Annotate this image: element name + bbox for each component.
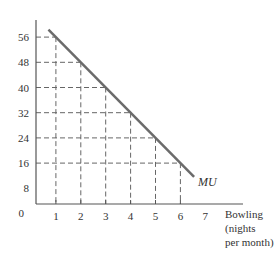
- origin-label: 0: [19, 207, 25, 219]
- y-tick-label: 16: [18, 157, 30, 169]
- x-tick-label: 4: [128, 210, 134, 222]
- dashed-guides: [36, 37, 180, 204]
- x-tick-label: 3: [103, 210, 109, 222]
- y-tick-label: 40: [18, 82, 30, 94]
- svg-text:(nights: (nights: [225, 222, 256, 235]
- x-tick-label: 1: [53, 210, 59, 222]
- x-tick-labels: 1234567: [53, 210, 208, 222]
- y-tick-label: 48: [18, 56, 30, 68]
- x-tick-label: 5: [153, 210, 159, 222]
- y-tick-label: 32: [18, 107, 29, 119]
- y-tick-labels: 8162432404856: [18, 31, 30, 194]
- svg-text:Bowling: Bowling: [225, 208, 263, 220]
- y-tick-label: 56: [18, 31, 30, 43]
- x-axis-title: Bowling (nights per month): [225, 208, 274, 249]
- mu-chart: 8162432404856 1234567 0 MU Bowling (nigh…: [0, 0, 280, 266]
- x-tick-label: 6: [178, 210, 184, 222]
- mu-curve: [48, 30, 194, 177]
- y-tick-label: 24: [18, 132, 30, 144]
- mu-label: MU: [197, 175, 218, 189]
- y-tick-label: 8: [24, 182, 30, 194]
- x-tick-label: 2: [78, 210, 84, 222]
- svg-text:per month): per month): [225, 236, 274, 249]
- x-tick-label: 7: [203, 210, 209, 222]
